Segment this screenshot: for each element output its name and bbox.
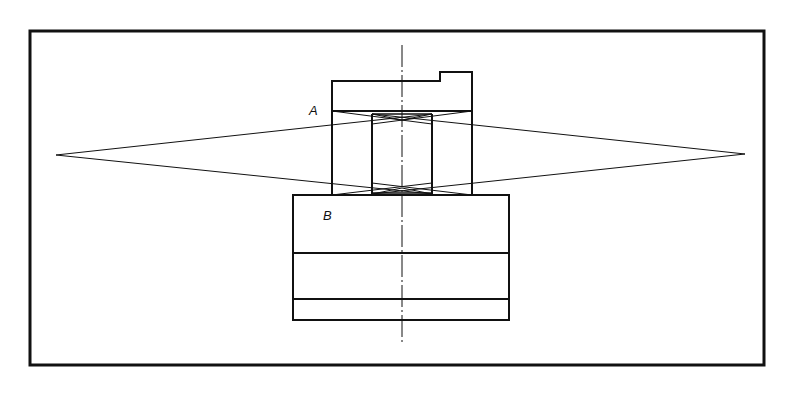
diamond-right-lower xyxy=(372,154,745,194)
label-a: A xyxy=(308,103,318,118)
diamond-left-upper xyxy=(56,114,432,155)
diamond-left-lower xyxy=(56,155,432,194)
drawing-canvas: A B xyxy=(0,0,788,396)
diamond-right-upper xyxy=(372,114,745,154)
label-b: B xyxy=(323,208,332,223)
